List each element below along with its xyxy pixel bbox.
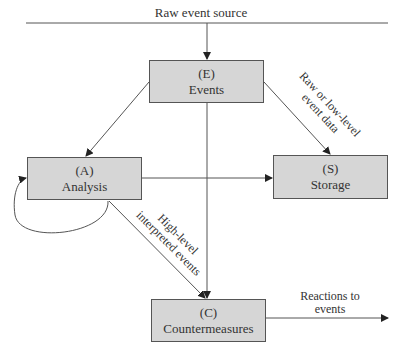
countermeasures-node-id: (C) bbox=[200, 305, 217, 321]
countermeasures-node-label: Countermeasures bbox=[163, 321, 253, 337]
storage-node: (S) Storage bbox=[273, 155, 388, 199]
events-node: (E) Events bbox=[149, 60, 264, 103]
storage-node-label: Storage bbox=[311, 177, 351, 193]
storage-node-id: (S) bbox=[323, 161, 339, 177]
reactions-label-line2: events bbox=[280, 303, 380, 316]
analysis-node-label: Analysis bbox=[62, 179, 108, 195]
raw-event-source-label: Raw event source bbox=[0, 6, 402, 19]
analysis-node-id: (A) bbox=[75, 163, 93, 179]
countermeasures-node: (C) Countermeasures bbox=[151, 299, 266, 342]
reactions-edge-label: Reactions to events bbox=[280, 290, 380, 316]
events-node-label: Events bbox=[189, 82, 224, 98]
events-to-analysis-arrow bbox=[86, 82, 149, 156]
analysis-node: (A) Analysis bbox=[27, 157, 142, 200]
events-node-id: (E) bbox=[198, 66, 215, 82]
